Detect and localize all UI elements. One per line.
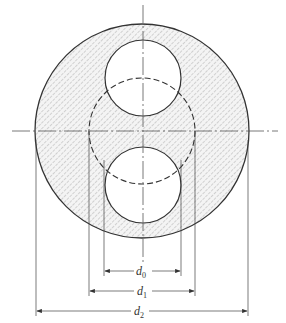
bottom-hole (105, 147, 181, 223)
svg-text:d2: d2 (134, 304, 144, 320)
dimension-d1: d1 (90, 284, 194, 300)
svg-text:d0: d0 (136, 264, 146, 280)
dimension-d2: d2 (37, 304, 247, 320)
cross-section-diagram: d0 d1 d2 (0, 0, 286, 323)
dimension-d0: d0 (105, 264, 180, 280)
svg-text:d1: d1 (137, 284, 147, 300)
